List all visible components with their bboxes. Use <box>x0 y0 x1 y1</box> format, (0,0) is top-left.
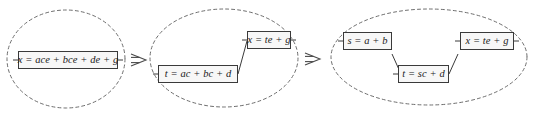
stage2-equation-box-1[interactable]: x = te + g <box>247 31 291 49</box>
equation-text: t = ac + bc + d <box>165 68 232 79</box>
stage2-connector <box>238 41 247 74</box>
equation-text: s = a + b <box>347 35 387 46</box>
stage-3-ellipse <box>331 9 527 105</box>
equation-text: x = ace + bce + de + g <box>18 54 119 64</box>
stage3-equation-box-3[interactable]: x = te + g <box>460 32 514 50</box>
stage-2-ellipse <box>150 9 298 107</box>
arrow-2 <box>305 53 320 65</box>
equation-text: x = te + g <box>247 34 290 45</box>
equation-text: t = sc + d <box>402 68 445 79</box>
stage3-connector-t-to-x <box>449 54 458 74</box>
stage2-equation-box-2[interactable]: t = ac + bc + d <box>158 65 238 83</box>
diagram-canvas: x = ace + bce + de + g x = te + g t = ac… <box>0 0 544 115</box>
arrow-1 <box>131 54 146 66</box>
stage1-equation-box-1[interactable]: x = ace + bce + de + g <box>18 51 118 69</box>
stage3-equation-box-1[interactable]: s = a + b <box>343 32 392 50</box>
stage3-equation-box-2[interactable]: t = sc + d <box>398 65 449 83</box>
equation-text: x = te + g <box>465 35 508 46</box>
